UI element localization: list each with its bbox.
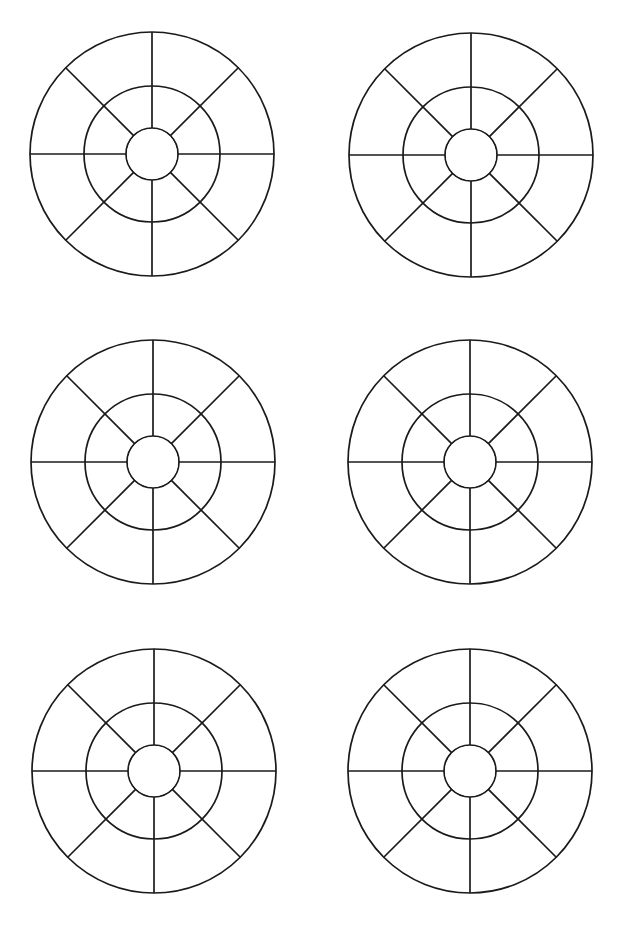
hub-fill <box>445 746 495 796</box>
wheel-diagram <box>348 649 592 893</box>
hub-fill <box>128 437 178 487</box>
hub-fill <box>446 130 496 180</box>
hub-fill <box>445 437 495 487</box>
wheel-worksheet <box>0 0 622 932</box>
wheel-diagram <box>348 340 592 584</box>
wheel-diagram <box>349 33 593 277</box>
hub-fill <box>129 746 179 796</box>
wheel-diagram <box>30 32 274 276</box>
hub-fill <box>127 129 177 179</box>
page-background <box>0 0 622 932</box>
wheel-diagram <box>32 649 276 893</box>
wheel-diagram <box>31 340 275 584</box>
